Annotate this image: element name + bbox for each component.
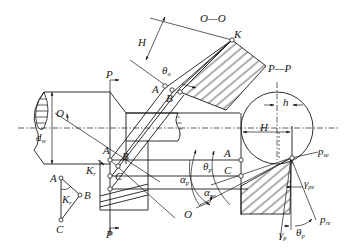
label-gamma-pe: γpe — [304, 177, 315, 190]
point-tip — [290, 156, 294, 160]
label-gamma-p: γp — [279, 228, 287, 241]
label-tri-kappa: Kr — [61, 193, 72, 206]
label-alpha-p: αp — [180, 173, 190, 186]
label-P-top: P — [105, 68, 113, 80]
label-theta-p2: θp — [296, 226, 305, 239]
label-dw: dw — [36, 131, 47, 144]
label-kappa-r: Kr — [85, 164, 96, 177]
label-B-top: B — [166, 92, 173, 104]
label-P-bottom: P — [105, 228, 113, 240]
tool-geometry-diagram: O—O K H θo A B P P O O dw A B C Kr A B C… — [0, 0, 347, 252]
label-O-left: O — [56, 107, 64, 119]
label-p-se: pse — [317, 145, 329, 158]
section-p-markers — [55, 80, 160, 235]
label-A-mid: A — [102, 144, 110, 156]
label-A-right: A — [223, 147, 231, 159]
label-oo: O—O — [200, 12, 226, 24]
label-tri-A: A — [49, 172, 57, 184]
label-H-right: H — [259, 121, 269, 133]
label-A-top: A — [151, 83, 159, 95]
label-p-re: pre — [319, 213, 331, 226]
label-alpha-pe: αpe — [204, 186, 216, 199]
section-pp — [189, 82, 318, 240]
point-C-mid — [108, 174, 112, 178]
label-theta-o: θo — [162, 64, 171, 77]
workpiece-section-hatch — [36, 92, 48, 129]
point-D-mid — [108, 187, 112, 191]
label-tri-B: B — [84, 189, 91, 201]
point-A-right — [239, 158, 243, 162]
label-H-top: H — [137, 36, 147, 48]
label-pp: P—P — [267, 62, 292, 74]
label-O-bottom: O — [184, 208, 192, 220]
label-tri-C: C — [56, 223, 64, 235]
label-C-right: C — [224, 164, 232, 176]
label-C-mid: C — [115, 170, 123, 182]
point-B-mid — [116, 164, 120, 168]
label-h: h — [283, 96, 289, 108]
point-A-mid — [108, 158, 112, 162]
section-oo — [130, 17, 266, 110]
point-B-top2 — [178, 90, 182, 94]
point-C-right — [239, 174, 243, 178]
label-theta-p: θp — [203, 160, 212, 173]
point-A-top — [163, 84, 167, 88]
label-K: K — [233, 28, 242, 40]
H-dimension-top — [146, 17, 165, 60]
label-B-mid: B — [122, 150, 129, 162]
